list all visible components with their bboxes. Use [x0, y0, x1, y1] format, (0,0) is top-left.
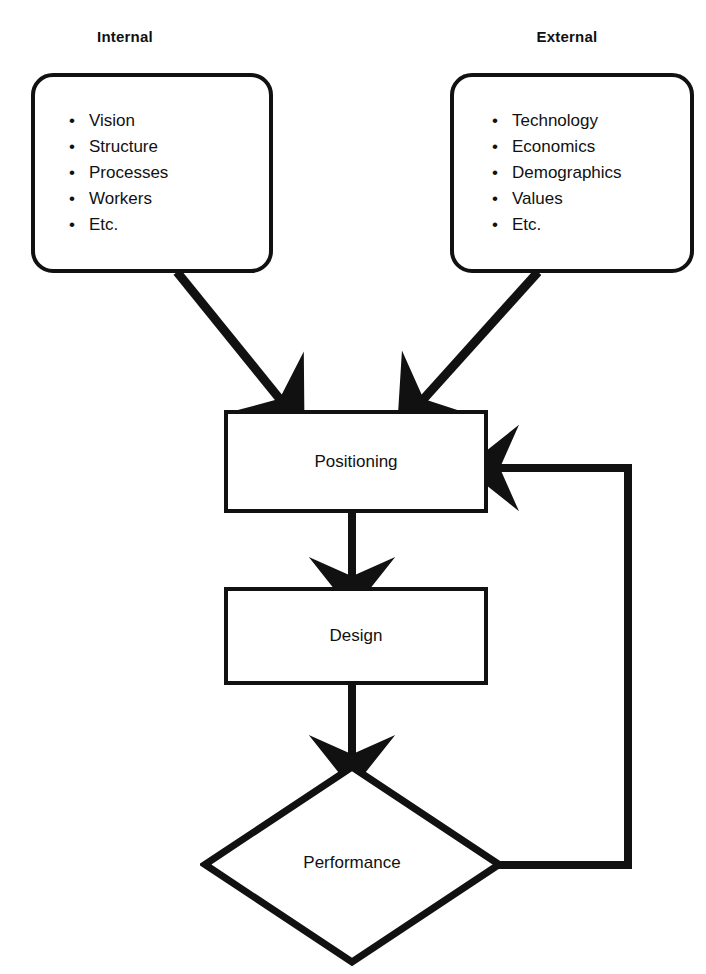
bullet-point-icon: • — [492, 160, 498, 186]
list-item: • Vision — [69, 108, 269, 134]
bullet-point-icon: • — [69, 212, 75, 238]
external-bullet-list: • Technology • Economics • Demographics … — [454, 108, 690, 238]
list-item: • Etc. — [69, 212, 269, 238]
list-item: • Etc. — [492, 212, 690, 238]
bullet-point-icon: • — [492, 212, 498, 238]
list-item: • Economics — [492, 134, 690, 160]
source-box-external[interactable]: • Technology • Economics • Demographics … — [450, 73, 694, 273]
node-design[interactable]: Design — [224, 587, 488, 685]
node-performance-label: Performance — [200, 853, 504, 873]
list-item: • Workers — [69, 186, 269, 212]
list-item-label: Etc. — [512, 215, 541, 234]
column-heading-external: External — [487, 28, 647, 45]
bullet-point-icon: • — [69, 160, 75, 186]
list-item-label: Economics — [512, 137, 595, 156]
list-item-label: Processes — [89, 163, 168, 182]
list-item-label: Workers — [89, 189, 152, 208]
column-heading-internal: Internal — [45, 28, 205, 45]
list-item: • Values — [492, 186, 690, 212]
list-item-label: Technology — [512, 111, 598, 130]
list-item-label: Demographics — [512, 163, 622, 182]
node-positioning-label: Positioning — [314, 452, 397, 472]
bullet-point-icon: • — [492, 134, 498, 160]
node-design-label: Design — [330, 626, 383, 646]
bullet-point-icon: • — [69, 186, 75, 212]
source-box-internal[interactable]: • Vision • Structure • Processes • Worke… — [31, 73, 273, 273]
bullet-point-icon: • — [69, 134, 75, 160]
bullet-point-icon: • — [69, 108, 75, 134]
node-positioning[interactable]: Positioning — [224, 410, 488, 513]
edge-internal-to-positioning — [177, 272, 283, 403]
flow-diagram-canvas: Internal External • Vision • Structure •… — [0, 0, 706, 974]
list-item: • Structure — [69, 134, 269, 160]
list-item: • Demographics — [492, 160, 690, 186]
internal-bullet-list: • Vision • Structure • Processes • Worke… — [35, 108, 269, 238]
list-item-label: Values — [512, 189, 563, 208]
edge-external-to-positioning — [420, 272, 538, 403]
list-item: • Technology — [492, 108, 690, 134]
list-item-label: Structure — [89, 137, 158, 156]
list-item-label: Etc. — [89, 215, 118, 234]
bullet-point-icon: • — [492, 186, 498, 212]
edge-performance-to-positioning-feedback — [495, 468, 628, 865]
list-item: • Processes — [69, 160, 269, 186]
list-item-label: Vision — [89, 111, 135, 130]
bullet-point-icon: • — [492, 108, 498, 134]
